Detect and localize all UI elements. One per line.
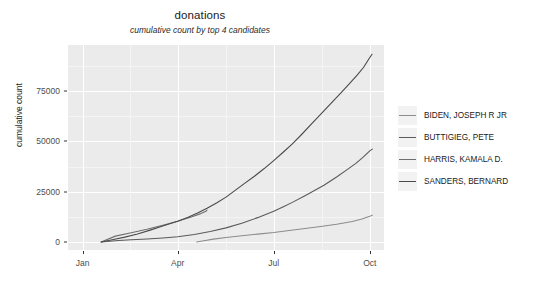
chart-title: donations <box>0 8 400 22</box>
legend-line-key-icon <box>398 106 417 125</box>
legend-item-label: SANDERS, BERNARD <box>424 177 508 186</box>
legend: BIDEN, JOSEPH R JRBUTTIGIEG, PETEHARRIS,… <box>398 104 540 192</box>
chart-subtitle: cumulative count by top 4 candidates <box>0 24 400 36</box>
legend-item[interactable]: BUTTIGIEG, PETE <box>398 126 540 148</box>
legend-line-key-icon <box>398 172 417 191</box>
x-tick-label: Jul <box>268 258 279 268</box>
y-tick-mark <box>64 141 67 142</box>
legend-line-key-icon <box>398 128 417 147</box>
legend-line-swatch <box>399 181 416 182</box>
plot-panel-wrapper <box>68 45 384 250</box>
y-tick-mark <box>64 91 67 92</box>
x-tick-mark <box>274 251 275 254</box>
y-tick-mark <box>64 241 67 242</box>
legend-item-label: HARRIS, KAMALA D. <box>424 155 503 164</box>
y-tick-mark <box>64 191 67 192</box>
y-tick-label: 75000 <box>36 86 60 96</box>
series-lines-layer <box>68 45 384 250</box>
legend-item[interactable]: SANDERS, BERNARD <box>398 170 540 192</box>
series-line <box>101 149 372 242</box>
x-tick-mark <box>83 251 84 254</box>
y-tick-label: 0 <box>55 237 60 247</box>
x-tick-label: Apr <box>171 258 184 268</box>
chart-header: donations cumulative count by top 4 cand… <box>0 8 400 36</box>
legend-item-label: BUTTIGIEG, PETE <box>424 133 494 142</box>
x-tick-mark <box>370 251 371 254</box>
y-axis-label: cumulative count <box>14 83 24 147</box>
x-tick-mark <box>178 251 179 254</box>
y-tick-label: 50000 <box>36 136 60 146</box>
chart-container: donations cumulative count by top 4 cand… <box>0 0 543 281</box>
y-tick-label: 25000 <box>36 187 60 197</box>
legend-item[interactable]: BIDEN, JOSEPH R JR <box>398 104 540 126</box>
x-tick-label: Jan <box>76 258 90 268</box>
x-tick-label: Oct <box>363 258 376 268</box>
legend-line-swatch <box>399 137 416 138</box>
legend-line-key-icon <box>398 150 417 169</box>
legend-item-label: BIDEN, JOSEPH R JR <box>424 111 507 120</box>
series-line <box>101 54 372 242</box>
legend-item[interactable]: HARRIS, KAMALA D. <box>398 148 540 170</box>
legend-line-swatch <box>399 159 416 160</box>
series-line <box>101 210 207 242</box>
legend-line-swatch <box>399 115 416 116</box>
